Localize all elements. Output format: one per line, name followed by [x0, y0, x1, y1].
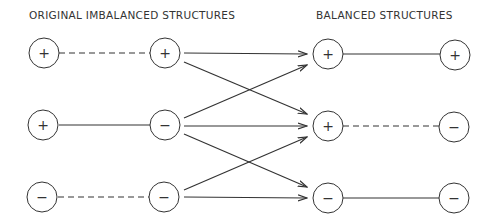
- node-original-1a: +: [29, 38, 59, 68]
- arrow-3-to-2: [184, 137, 307, 190]
- node-balanced-2b: −: [439, 112, 469, 142]
- node-balanced-3a: −: [313, 183, 343, 213]
- node-balanced-1b: +: [440, 40, 470, 70]
- arrow-2-to-3: [184, 134, 307, 187]
- balance-diagram: + + − + − − + + − + − −: [0, 0, 494, 223]
- arrow-1-to-1: [184, 53, 307, 54]
- node-balanced-1a: +: [313, 39, 343, 69]
- node-original-3a: −: [27, 182, 57, 212]
- svg-text:+: +: [159, 45, 171, 61]
- svg-text:+: +: [322, 118, 334, 134]
- svg-text:−: −: [159, 117, 171, 133]
- svg-text:−: −: [448, 190, 460, 206]
- arrow-1-to-2: [184, 62, 307, 114]
- svg-text:+: +: [449, 47, 461, 63]
- node-original-1b: +: [150, 38, 180, 68]
- svg-text:−: −: [448, 119, 460, 135]
- arrow-3-to-3: [184, 197, 307, 198]
- node-original-2a: +: [28, 110, 58, 140]
- svg-text:+: +: [322, 46, 334, 62]
- node-original-3b: −: [149, 182, 179, 212]
- svg-text:+: +: [38, 45, 50, 61]
- svg-text:−: −: [36, 189, 48, 205]
- svg-text:−: −: [158, 189, 170, 205]
- svg-text:+: +: [37, 117, 49, 133]
- node-original-2b: −: [150, 110, 180, 140]
- arrow-2-to-1: [184, 65, 307, 118]
- node-balanced-3b: −: [439, 183, 469, 213]
- svg-text:−: −: [322, 190, 334, 206]
- node-balanced-2a: +: [313, 111, 343, 141]
